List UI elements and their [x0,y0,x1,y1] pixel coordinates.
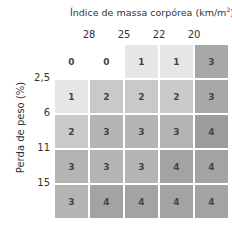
col-header-20: 20 [177,29,211,40]
heatmap-cell: 4 [125,185,158,218]
heatmap-cell: 2 [160,80,193,113]
heatmap-cell: 2 [55,115,88,148]
row-tick-6: 6 [30,107,50,118]
heatmap-cell: 4 [90,185,123,218]
heatmap-cell: 0 [90,45,123,78]
heatmap-cell: 0 [55,45,88,78]
heatmap-cell: 3 [125,115,158,148]
heatmap-cell: 3 [90,115,123,148]
heatmap-cell: 4 [195,150,228,183]
heatmap-cell: 3 [90,150,123,183]
col-header-25: 25 [107,29,141,40]
heatmap-cell: 4 [160,150,193,183]
row-tick-11: 11 [30,142,50,153]
row-tick-15: 15 [30,177,50,188]
heatmap-grid: 0011312223233343334434444 [55,45,228,218]
heatmap-cell: 4 [195,115,228,148]
heatmap-cell: 1 [160,45,193,78]
heatmap-cell: 4 [160,185,193,218]
heatmap-cell: 3 [125,150,158,183]
row-tick-2-5: 2,5 [30,72,50,83]
heatmap-cell: 1 [55,80,88,113]
heatmap-cell: 3 [195,45,228,78]
heatmap-cell: 2 [90,80,123,113]
heatmap-cell: 4 [195,185,228,218]
heatmap-cell: 2 [125,80,158,113]
col-header-22: 22 [142,29,176,40]
chart-title: Índice de massa corpórea (km/m2) [70,6,232,18]
heatmap-cell: 3 [55,150,88,183]
col-header-28: 28 [72,29,106,40]
heatmap-cell: 1 [125,45,158,78]
heatmap-cell: 3 [195,80,228,113]
y-axis-label: Perda de peso (%) [15,78,26,178]
heatmap-cell: 3 [55,185,88,218]
heatmap-cell: 3 [160,115,193,148]
